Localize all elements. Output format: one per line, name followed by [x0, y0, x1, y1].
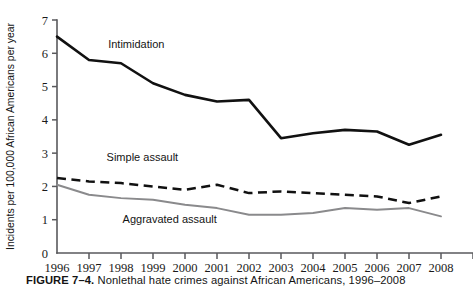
x-axis-tick-label: 1998 [109, 261, 134, 272]
y-axis-title-text: Incidents per 100,000 African Americans … [5, 22, 16, 250]
y-axis-tick-label: 0 [42, 247, 48, 261]
series-label-intimidation: Intimidation [108, 38, 164, 50]
series-label-group: IntimidationSimple assaultAggravated ass… [107, 38, 217, 225]
y-axis-tick-label: 6 [42, 47, 48, 61]
x-axis-tick-label: 2001 [205, 261, 230, 272]
x-axis: 1996199719981999200020012002200320042005… [45, 253, 473, 272]
y-axis-tick-label: 4 [42, 113, 49, 127]
x-axis-tick-label: 1997 [77, 261, 102, 272]
figure-caption-text: Nonlethal hate crimes against African Am… [97, 274, 405, 286]
y-axis: 01234567 [42, 14, 57, 261]
series-line-intimidation [57, 37, 441, 145]
y-axis-tick-label: 3 [42, 147, 48, 161]
figure-caption: FIGURE 7–4. Nonlethal hate crimes agains… [26, 274, 466, 286]
x-axis-tick-label: 1999 [141, 261, 166, 272]
figure-container: 01234567 1996199719981999200020012002200… [0, 0, 473, 297]
series-label-simple-assault: Simple assault [107, 151, 179, 163]
x-axis-tick-label: 2005 [333, 261, 358, 272]
x-axis-tick-label: 2002 [237, 261, 262, 272]
series-line-aggravated-assault [57, 185, 441, 217]
y-axis-title: Incidents per 100,000 African Americans … [5, 22, 16, 250]
x-axis-tick-label: 1996 [45, 261, 70, 272]
chart-series-group [57, 37, 441, 217]
y-axis-tick-label: 2 [42, 180, 48, 194]
figure-number: FIGURE 7–4. [26, 274, 94, 286]
y-axis-tick-label: 1 [42, 213, 48, 227]
x-axis-tick-label: 2007 [397, 261, 422, 272]
series-label-aggravated-assault: Aggravated assault [123, 213, 217, 225]
x-axis-tick-label: 2000 [173, 261, 198, 272]
series-line-simple-assault [57, 178, 441, 203]
x-axis-tick-label: 2003 [269, 261, 294, 272]
x-axis-tick-label: 2008 [429, 261, 454, 272]
y-axis-tick-label: 7 [42, 14, 48, 28]
y-axis-tick-label: 5 [42, 80, 48, 94]
x-axis-tick-label: 2006 [365, 261, 390, 272]
chart-plot-area: 01234567 1996199719981999200020012002200… [0, 0, 473, 272]
line-chart: 01234567 1996199719981999200020012002200… [0, 0, 473, 272]
x-axis-tick-label: 2004 [301, 261, 327, 272]
